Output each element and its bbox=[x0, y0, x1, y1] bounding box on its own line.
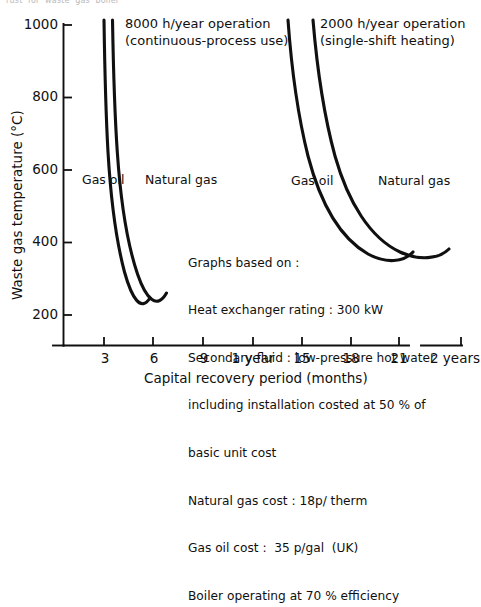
notes-line-5: basic unit cost bbox=[188, 446, 435, 462]
y-tick-label-800: 800 bbox=[12, 89, 58, 105]
annotation-8000h-line1: 8000 h/year operation bbox=[125, 16, 270, 33]
curve-2000h-natural-gas bbox=[313, 20, 449, 258]
y-axis-title: Waste gas temperature (°C) bbox=[10, 110, 26, 300]
curve-label-left-natural-gas: Natural gas bbox=[145, 173, 217, 188]
notes-line-6: Natural gas cost : 18p/ therm bbox=[188, 494, 435, 510]
curve-8000h-gas-oil bbox=[104, 20, 150, 304]
notes-line-8: Boiler operating at 70 % efficiency bbox=[188, 589, 435, 605]
curve-label-right-natural-gas: Natural gas bbox=[378, 174, 450, 189]
curve-label-right-gas-oil: Gas oil bbox=[291, 174, 333, 189]
notes-line-7: Gas oil cost : 35 p/gal (UK) bbox=[188, 541, 435, 557]
curve-group-8000h bbox=[104, 20, 167, 304]
notes-block: Graphs based on : Heat exchanger rating … bbox=[188, 224, 435, 607]
notes-line-2: Heat exchanger rating : 300 kW bbox=[188, 303, 435, 319]
curve-label-left-gas-oil: Gas oil bbox=[82, 173, 124, 188]
notes-line-1: Graphs based on : bbox=[188, 256, 435, 272]
y-ticks bbox=[64, 25, 73, 315]
x-tick-label-2years: 2 years bbox=[429, 351, 481, 367]
annotation-8000h-line2: (continuous-process use) bbox=[125, 33, 288, 50]
annotation-2000h-line2: (single-shift heating) bbox=[320, 33, 455, 50]
notes-line-3: Secondary fluid : low-pressure hot water bbox=[188, 351, 435, 367]
x-tick-label-6: 6 bbox=[143, 351, 165, 367]
notes-line-4: including installation costed at 50 % of bbox=[188, 398, 435, 414]
annotation-2000h-line1: 2000 h/year operation bbox=[320, 16, 465, 33]
y-tick-label-1000: 1000 bbox=[12, 17, 58, 33]
x-tick-label-3: 3 bbox=[94, 351, 116, 367]
y-tick-label-200: 200 bbox=[12, 307, 58, 323]
